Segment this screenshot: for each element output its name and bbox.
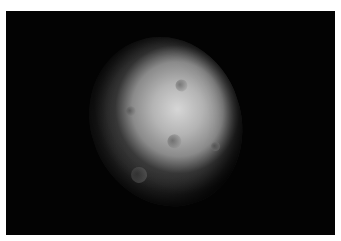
crater <box>166 133 184 151</box>
crater <box>129 165 149 185</box>
crater <box>174 78 189 93</box>
moon-body <box>68 17 264 227</box>
crater <box>125 105 138 118</box>
space-photo-frame <box>6 11 335 235</box>
crater <box>210 141 221 152</box>
